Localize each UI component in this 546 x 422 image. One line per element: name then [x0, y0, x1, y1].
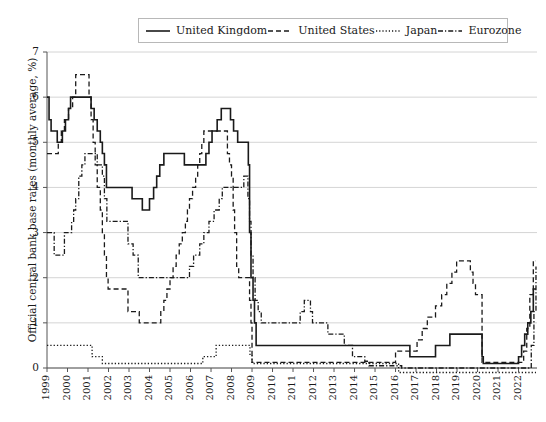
- x-tick-label: 2007: [205, 375, 215, 400]
- legend-label: United Kingdom: [176, 25, 267, 36]
- legend-label: Eurozone: [468, 25, 521, 36]
- x-tick-label: 2009: [246, 375, 256, 400]
- x-tick-label: 2020: [472, 375, 482, 400]
- x-tick-label: 2016: [390, 375, 400, 400]
- x-tick-label: 2004: [144, 375, 154, 400]
- chart-figure: Official central bank base rates (monthl…: [0, 0, 546, 422]
- solid-line-swatch: [145, 26, 171, 36]
- legend-item-united-states: United States: [267, 25, 374, 36]
- x-tick-label: 2012: [308, 375, 318, 400]
- dotted-line-swatch: [375, 26, 401, 36]
- series-line-united-states: [47, 75, 536, 363]
- dashdot-line-swatch: [437, 26, 463, 36]
- dashed-line-swatch: [267, 26, 293, 36]
- x-tick-label: 2019: [451, 375, 461, 400]
- x-tick-label: 2015: [369, 375, 379, 400]
- x-tick-label: 2000: [62, 375, 72, 400]
- legend-item-united-kingdom: United Kingdom: [145, 25, 267, 36]
- x-tick-label: 2003: [123, 375, 133, 400]
- x-tick-label: 2006: [185, 375, 195, 400]
- x-tick-label: 2005: [164, 375, 174, 400]
- chart-legend: United Kingdom United States Japan Euroz…: [138, 18, 508, 43]
- legend-item-japan: Japan: [375, 25, 438, 36]
- x-tick-label: 2010: [267, 375, 277, 400]
- x-tick-label: 1999: [41, 375, 51, 400]
- x-tick-label: 2013: [328, 375, 338, 400]
- x-tick-label: 2011: [287, 375, 297, 400]
- x-tick-label: 2018: [431, 375, 441, 400]
- legend-label: Japan: [406, 25, 438, 36]
- x-tick-label: 2021: [492, 375, 502, 400]
- legend-item-eurozone: Eurozone: [437, 25, 521, 36]
- series-line-united-kingdom: [47, 97, 536, 363]
- x-tick-label: 2002: [103, 375, 113, 400]
- x-tick-label: 2022: [513, 375, 523, 400]
- x-tick-label: 2008: [226, 375, 236, 400]
- legend-label: United States: [298, 25, 374, 36]
- x-tick-label: 2014: [349, 375, 359, 400]
- plot-area: [0, 0, 546, 422]
- x-tick-label: 2001: [82, 375, 92, 400]
- x-tick-label: 2017: [410, 375, 420, 400]
